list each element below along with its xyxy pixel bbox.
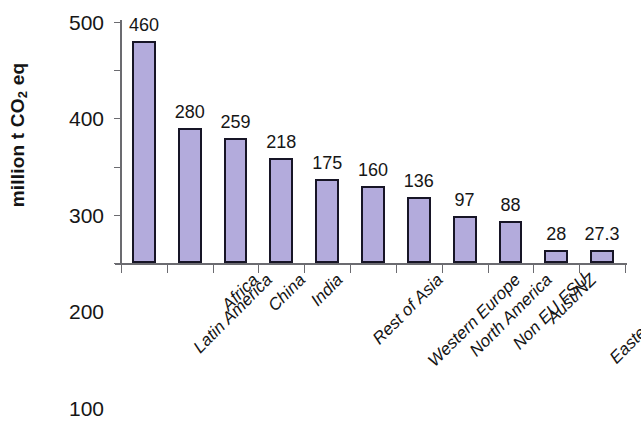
x-tick-mark	[533, 264, 534, 273]
x-axis-label: India	[308, 271, 346, 309]
bar	[499, 221, 523, 263]
y-tick-label: 500	[69, 12, 104, 33]
y-tick-label: 100	[69, 397, 104, 418]
y-tick-label: 200	[69, 301, 104, 322]
y-tick-label: 300	[69, 204, 104, 225]
bar	[315, 179, 339, 263]
y-tick-label: 400	[69, 108, 104, 129]
bar-value-label: 218	[266, 133, 296, 151]
bar-value-label: 88	[500, 196, 520, 214]
y-tick-mark: 200	[114, 167, 121, 168]
bar	[361, 186, 385, 263]
bar-value-label: 160	[358, 161, 388, 179]
bar-value-label: 28	[546, 225, 566, 243]
y-tick-mark: 300	[114, 118, 121, 119]
x-tick-mark	[488, 264, 489, 273]
x-tick-mark	[121, 264, 122, 273]
x-axis-line	[115, 263, 627, 265]
bar-value-label: 259	[221, 113, 251, 131]
bar	[269, 158, 293, 263]
bar	[407, 197, 431, 263]
plot-area: 0100200300400500 46028025921817516013697…	[121, 22, 625, 263]
y-axis-title: million t CO2 eq	[0, 0, 36, 270]
x-tick-mark	[213, 264, 214, 273]
x-axis-label: Eastern Europe	[607, 271, 641, 367]
bar-value-label: 460	[129, 16, 159, 34]
bar-value-label: 175	[312, 154, 342, 172]
bar	[132, 41, 156, 263]
x-axis-label: China	[265, 271, 308, 314]
bar	[224, 138, 248, 263]
x-tick-mark	[396, 264, 397, 273]
bar	[544, 250, 568, 263]
y-axis-title-post: eq	[7, 63, 28, 91]
y-axis-title-subscript: 2	[15, 91, 30, 98]
y-tick-mark: 500	[114, 22, 121, 23]
bar	[453, 216, 477, 263]
bar	[590, 250, 614, 263]
bar-value-label: 136	[404, 172, 434, 190]
x-axis-label: Rest of Asia	[370, 271, 446, 347]
y-tick-mark: 0	[114, 263, 121, 264]
x-axis-label: Latin America	[190, 271, 275, 356]
bar	[178, 128, 202, 263]
x-tick-mark	[350, 264, 351, 273]
bar-chart: million t CO2 eq 0100200300400500 460280…	[0, 0, 641, 435]
bar-value-label: 280	[175, 103, 205, 121]
y-tick-mark: 100	[114, 215, 121, 216]
bar-value-label: 97	[455, 191, 475, 209]
y-axis-title-text: million t CO2 eq	[7, 63, 29, 207]
x-tick-mark	[442, 264, 443, 273]
x-tick-mark	[167, 264, 168, 273]
bar-value-label: 27.3	[585, 225, 620, 243]
y-tick-mark: 400	[114, 70, 121, 71]
y-axis-line	[120, 20, 122, 265]
x-tick-mark	[625, 264, 626, 273]
x-tick-mark	[304, 264, 305, 273]
y-axis-title-pre: million t CO	[7, 98, 28, 207]
